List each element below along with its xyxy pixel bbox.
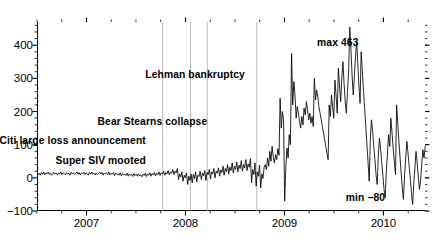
x-tick-label-2007: 2007 <box>74 217 100 229</box>
chart-figure: −1000100200300400 2007200820092010 Super… <box>0 0 437 246</box>
x-axis-labels: 2007200820092010 <box>0 213 437 235</box>
x-tick-label-2008: 2008 <box>173 217 199 229</box>
callout-max: max 463 <box>317 37 358 47</box>
event-label-2: Bear Stearns collapse <box>98 117 208 127</box>
event-label-1: Citi large loss announcement <box>0 136 146 146</box>
event-label-3: Lehman bankruptcy <box>145 70 245 80</box>
event-label-0: Super SIV mooted <box>56 156 146 166</box>
x-tick-label-2009: 2009 <box>272 217 298 229</box>
callout-min: min −80 <box>346 193 385 203</box>
x-tick-label-2010: 2010 <box>371 217 397 229</box>
y-axis-ticks <box>0 0 437 246</box>
